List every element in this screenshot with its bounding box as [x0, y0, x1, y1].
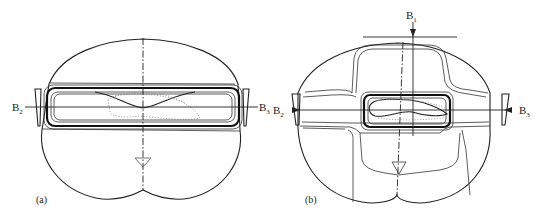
panel-b-triangle-marker — [392, 162, 406, 174]
panel-b-caption: (b) — [305, 194, 317, 206]
panel-a-upper-band — [50, 83, 235, 84]
panel-a-label-left: B2 — [12, 101, 23, 116]
panel-b-upper-arm-left-inner — [303, 95, 356, 97]
panel-b-label-right: B3 — [519, 104, 530, 119]
panel-a-dotted-profile — [108, 93, 200, 120]
panel-b-horizontal-band-lower-2 — [302, 122, 489, 123]
panel-b-right-arrow-icon — [504, 107, 512, 113]
panel-b-label-top: B1 — [406, 9, 417, 24]
panel-a-left-wedge — [35, 89, 41, 126]
panel-b-lower-left-side — [303, 128, 345, 129]
panel-b-lower-left-leg — [348, 130, 353, 202]
panel-a-outer-outline — [42, 39, 241, 199]
panel-a-label-right: B3 — [259, 101, 270, 116]
panel-b-lower-arm — [360, 133, 460, 175]
panel-b-dotted-profile-2 — [378, 118, 444, 120]
panel-b-wave-profile — [369, 99, 447, 116]
panel-b: B1 B2 B3 (b) — [273, 9, 530, 206]
panel-a-right-wedge — [243, 89, 249, 126]
panel-a: B2 B3 (a) — [12, 38, 270, 206]
panel-b-upper-arm-left — [305, 90, 352, 93]
technical-figure: B2 B3 (a) — [0, 0, 539, 216]
panel-a-caption: (a) — [36, 194, 47, 206]
panel-b-upper-arm — [352, 45, 488, 93]
panel-b-left-arrow-icon — [292, 107, 300, 113]
panel-b-label-left: B2 — [273, 104, 284, 119]
panel-b-top-arrow-icon — [410, 29, 416, 37]
panel-a-dotted-profile-2 — [115, 94, 185, 103]
panel-b-lower-right-leg — [462, 130, 470, 195]
